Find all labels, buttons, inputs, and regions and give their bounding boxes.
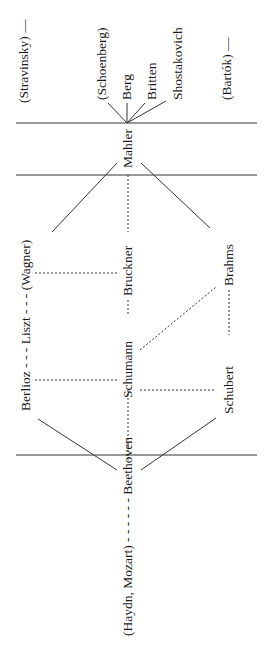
label-britten: Britten <box>145 63 159 101</box>
label-bruckner: Bruckner <box>121 246 135 296</box>
label-bartok: (Bartók) — <box>220 37 234 100</box>
label-schoenberg: (Schoenberg) <box>95 28 109 100</box>
label-berg: Berg <box>120 74 134 100</box>
diagram-lines <box>0 0 278 655</box>
label-berlioz-liszt-wagner: Berlioz - - - Liszt - - - (Wagner) <box>19 240 33 411</box>
label-schubert: Schubert <box>222 366 236 414</box>
label-brahms: Brahms <box>222 244 236 286</box>
label-haydn-mozart-beethoven: (Haydn, Mozart) - - - - - - Beethoven <box>121 437 135 636</box>
label-schumann: Schumann <box>121 341 135 398</box>
label-mahler: Mahler <box>121 129 135 168</box>
label-stravinsky: (Stravinsky) — <box>17 19 31 103</box>
label-shostakovich: Shostakovich <box>171 27 185 100</box>
